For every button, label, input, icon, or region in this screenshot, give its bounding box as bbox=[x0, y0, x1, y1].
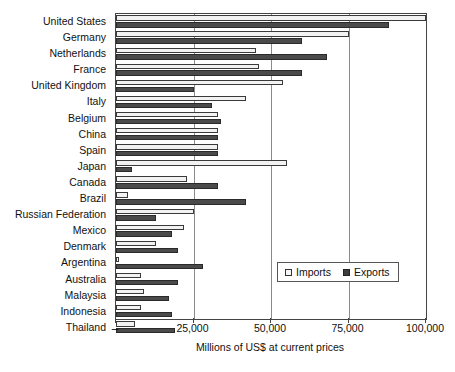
bar-group bbox=[116, 62, 426, 78]
bar-imports bbox=[116, 257, 119, 262]
category-label: France bbox=[0, 61, 111, 77]
x-tick-label: 50,000 bbox=[254, 322, 286, 334]
bar-group bbox=[116, 30, 426, 46]
bar-exports bbox=[116, 280, 178, 285]
category-label: Japan bbox=[0, 158, 111, 174]
category-label: Canada bbox=[0, 174, 111, 190]
bar-imports bbox=[116, 192, 128, 197]
category-label: Netherlands bbox=[0, 45, 111, 61]
bar-exports bbox=[116, 103, 212, 108]
legend-item-imports: Imports bbox=[285, 266, 331, 278]
category-label: Denmark bbox=[0, 238, 111, 254]
bar-imports bbox=[116, 176, 187, 181]
bar-group bbox=[116, 14, 426, 30]
category-label: Mexico bbox=[0, 222, 111, 238]
bar-group bbox=[116, 288, 426, 304]
category-label: Australia bbox=[0, 271, 111, 287]
x-tick-label: 75,000 bbox=[331, 322, 363, 334]
x-axis-ticklabels: –25,00050,00075,000100,000 bbox=[0, 322, 455, 338]
bar-group bbox=[116, 191, 426, 207]
bar-group bbox=[116, 143, 426, 159]
bar-imports bbox=[116, 15, 426, 20]
legend-item-exports: Exports bbox=[343, 266, 390, 278]
bar-imports bbox=[116, 289, 144, 294]
bar-imports bbox=[116, 241, 156, 246]
category-label: China bbox=[0, 126, 111, 142]
category-label: Belgium bbox=[0, 110, 111, 126]
bar-exports bbox=[116, 312, 172, 317]
bar-group bbox=[116, 94, 426, 110]
bar-exports bbox=[116, 38, 302, 43]
bar-exports bbox=[116, 54, 327, 59]
category-label: Italy bbox=[0, 93, 111, 109]
bar-group bbox=[116, 111, 426, 127]
category-label: United States bbox=[0, 13, 111, 29]
legend-label-exports: Exports bbox=[354, 266, 390, 278]
bar-exports bbox=[116, 70, 302, 75]
bar-exports bbox=[116, 87, 194, 92]
bar-exports bbox=[116, 119, 221, 124]
bar-exports bbox=[116, 264, 203, 269]
bar-group bbox=[116, 239, 426, 255]
bar-exports bbox=[116, 167, 132, 172]
chart-legend: Imports Exports bbox=[277, 262, 399, 282]
bar-imports bbox=[116, 160, 287, 165]
bar-imports bbox=[116, 112, 218, 117]
bar-group bbox=[116, 46, 426, 62]
bar-exports bbox=[116, 248, 178, 253]
bar-group bbox=[116, 159, 426, 175]
bar-imports bbox=[116, 128, 218, 133]
bar-imports bbox=[116, 144, 218, 149]
category-label: United Kingdom bbox=[0, 77, 111, 93]
bar-imports bbox=[116, 305, 141, 310]
bar-imports bbox=[116, 96, 246, 101]
legend-swatch-imports bbox=[285, 269, 292, 276]
bar-imports bbox=[116, 48, 256, 53]
legend-label-imports: Imports bbox=[296, 266, 331, 278]
category-label: Germany bbox=[0, 29, 111, 45]
bar-group bbox=[116, 175, 426, 191]
category-label: Spain bbox=[0, 142, 111, 158]
x-axis-title: Millions of US$ at current prices bbox=[115, 341, 425, 353]
bar-exports bbox=[116, 296, 169, 301]
category-label: Malaysia bbox=[0, 287, 111, 303]
bar-exports bbox=[116, 231, 172, 236]
bar-group bbox=[116, 127, 426, 143]
bar-exports bbox=[116, 183, 218, 188]
bar-exports bbox=[116, 199, 246, 204]
category-label: Indonesia bbox=[0, 303, 111, 319]
x-tick-label: 100,000 bbox=[406, 322, 444, 334]
bar-exports bbox=[116, 215, 156, 220]
category-label: Brazil bbox=[0, 190, 111, 206]
bar-imports bbox=[116, 225, 184, 230]
legend-swatch-exports bbox=[343, 269, 350, 276]
category-label: Russian Federation bbox=[0, 206, 111, 222]
category-label: Argentina bbox=[0, 254, 111, 270]
bar-imports bbox=[116, 273, 141, 278]
x-tick-label: 25,000 bbox=[176, 322, 208, 334]
bar-group bbox=[116, 223, 426, 239]
bar-imports bbox=[116, 80, 283, 85]
category-axis-labels: United StatesGermanyNetherlandsFranceUni… bbox=[0, 13, 111, 335]
bar-chart: United StatesGermanyNetherlandsFranceUni… bbox=[0, 0, 455, 372]
bar-imports bbox=[116, 31, 349, 36]
bar-group bbox=[116, 207, 426, 223]
bar-exports bbox=[116, 22, 389, 27]
bar-group bbox=[116, 78, 426, 94]
bar-exports bbox=[116, 135, 218, 140]
bar-imports bbox=[116, 209, 194, 214]
bar-imports bbox=[116, 64, 259, 69]
x-tick-label: – bbox=[112, 322, 119, 336]
bar-exports bbox=[116, 151, 218, 156]
